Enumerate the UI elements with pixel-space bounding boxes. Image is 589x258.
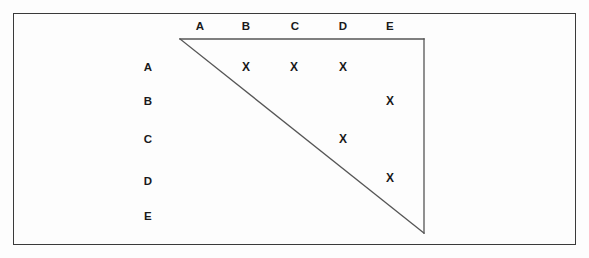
triangle-overlay [0, 0, 589, 258]
triangle-hypotenuse-edge [180, 39, 424, 233]
cell-mark-a-c: X [290, 60, 298, 74]
row-header-b: B [144, 95, 153, 107]
cell-mark-a-b: X [242, 60, 250, 74]
triangle-shape [180, 39, 424, 233]
row-header-e: E [144, 210, 152, 222]
column-header-a: A [196, 20, 205, 32]
column-header-c: C [291, 20, 300, 32]
column-header-d: D [339, 20, 348, 32]
cell-mark-d-e: X [386, 171, 394, 185]
row-header-c: C [144, 133, 153, 145]
figure-canvas: ABCDE ABCDE XXXXXX [0, 0, 589, 258]
row-header-a: A [144, 61, 153, 73]
cell-mark-c-d: X [339, 132, 347, 146]
column-header-b: B [242, 20, 251, 32]
row-header-d: D [144, 175, 153, 187]
cell-mark-b-e: X [386, 94, 394, 108]
cell-mark-a-d: X [339, 60, 347, 74]
column-header-e: E [386, 20, 394, 32]
